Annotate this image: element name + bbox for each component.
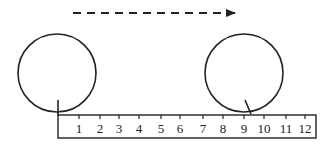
ruler-tick-label: 5 [158, 121, 165, 136]
ruler-tick-label: 11 [280, 121, 293, 136]
ruler-tick-label: 12 [299, 121, 312, 136]
ruler-tick-label: 2 [97, 121, 104, 136]
circle-start-position [18, 34, 96, 112]
ruler-ticks: 123456789101112 [76, 115, 312, 136]
ruler-tick-label: 6 [177, 121, 184, 136]
ruler-tick-label: 7 [200, 121, 207, 136]
ruler-tick-label: 3 [116, 121, 123, 136]
ruler-tick-label: 8 [220, 121, 227, 136]
ruler-tick-label: 10 [258, 121, 271, 136]
ruler-tick-label: 9 [241, 121, 248, 136]
rolling-circle-diagram: 123456789101112 [0, 0, 333, 148]
circle-end-position [205, 34, 283, 112]
ruler-tick-label: 4 [136, 121, 143, 136]
ruler-tick-label: 1 [76, 121, 83, 136]
